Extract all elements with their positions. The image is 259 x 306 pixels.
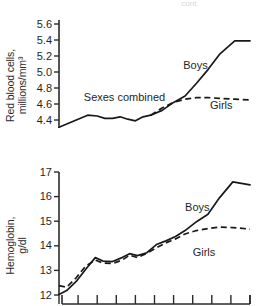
y-tick-label: 17: [12, 167, 52, 178]
data-series-sexes-combined: [59, 115, 151, 127]
chart-panel-hemoglobin: Hemoglobin, g/dl 121314151617 BoysGirls: [0, 160, 259, 306]
figure-container: cont. Red blood cells, millions/mm³ 4.44…: [0, 0, 259, 306]
data-series-boys: [59, 182, 250, 295]
y-tick-label: 5.4: [12, 35, 52, 46]
series-annotation-sexes-combined: Sexes combined: [84, 92, 165, 103]
data-series-boys: [151, 41, 250, 115]
y-tick-label: 5.6: [12, 19, 52, 30]
y-tick-label: 15: [12, 216, 52, 227]
figure-partial-top-text: cont.: [160, 0, 220, 7]
data-series-girls: [59, 227, 250, 287]
series-annotation-girls: Girls: [210, 100, 233, 111]
plot-area-bottom: [0, 160, 259, 306]
y-tick-label: 13: [12, 265, 52, 276]
series-annotation-boys: Boys: [185, 202, 209, 213]
y-tick-label: 16: [12, 191, 52, 202]
y-tick-label: 5.0: [12, 67, 52, 78]
series-annotation-boys: Boys: [183, 60, 207, 71]
y-tick-label: 14: [12, 240, 52, 251]
y-tick-label: 4.8: [12, 83, 52, 94]
y-tick-label: 4.6: [12, 99, 52, 110]
data-series-girls: [151, 98, 250, 116]
y-tick-label: 4.4: [12, 115, 52, 126]
y-tick-label: 12: [12, 290, 52, 301]
series-annotation-girls: Girls: [193, 247, 216, 258]
y-tick-label: 5.2: [12, 51, 52, 62]
chart-panel-red-blood-cells: Red blood cells, millions/mm³ 4.44.64.85…: [0, 8, 259, 148]
